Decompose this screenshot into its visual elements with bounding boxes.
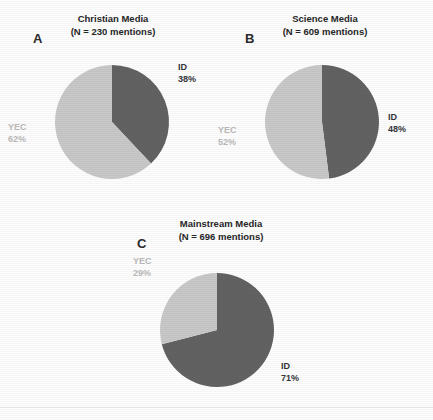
panel-c-id-label: ID 71% [281, 361, 299, 384]
panel-c-subtitle: (N = 696 mentions) [156, 231, 286, 244]
panel-b-slices [265, 65, 379, 179]
panel-c-title-text: Mainstream Media [180, 218, 262, 229]
panel-b-id-label-text: ID [388, 112, 397, 122]
panel-b-id-pct: 48% [388, 124, 406, 136]
panel-b-pie-svg [265, 65, 379, 179]
panel-c-pie-svg [160, 273, 274, 387]
panel-b-slice-id [322, 65, 379, 179]
panel-a-id-label-text: ID [178, 62, 187, 72]
panel-b-yec-label: YEC 52% [218, 125, 237, 148]
panel-c-letter: C [137, 236, 147, 251]
panel-c-yec-label: YEC 29% [133, 256, 152, 279]
panel-a-pie [55, 65, 169, 179]
panel-c-id-pct: 71% [281, 373, 299, 385]
panel-c-title: Mainstream Media (N = 696 mentions) [156, 218, 286, 243]
panel-c-id-label-text: ID [281, 361, 290, 371]
panel-b-title-text: Science Media [292, 13, 357, 24]
panel-a-yec-pct: 62% [8, 134, 27, 146]
panel-b-subtitle: (N = 609 mentions) [264, 26, 386, 39]
panel-a-pie-svg [55, 65, 169, 179]
baseline-rule [0, 407, 433, 408]
panel-b-pie [265, 65, 379, 179]
panel-a-id-pct: 38% [178, 74, 196, 86]
panel-a-yec-label: YEC 62% [8, 122, 27, 145]
panel-a-title-text: Christian Media [78, 13, 149, 24]
panel-c-pie [160, 273, 274, 387]
panel-c-slices [160, 273, 274, 387]
panel-a-title: Christian Media (N = 230 mentions) [52, 13, 174, 38]
panel-b-letter: B [245, 31, 255, 46]
panel-c-yec-pct: 29% [133, 268, 152, 280]
panel-a-slices [55, 65, 169, 179]
panel-b-yec-pct: 52% [218, 137, 237, 149]
pie-chart-figure: A Christian Media (N = 230 mentions) ID … [0, 0, 433, 420]
panel-a-yec-label-text: YEC [8, 122, 27, 132]
panel-b-title: Science Media (N = 609 mentions) [264, 13, 386, 38]
panel-b-id-label: ID 48% [388, 112, 406, 135]
panel-a-subtitle: (N = 230 mentions) [52, 26, 174, 39]
panel-c-yec-label-text: YEC [133, 256, 152, 266]
panel-a-id-label: ID 38% [178, 62, 196, 85]
panel-a-letter: A [33, 31, 43, 46]
panel-b-yec-label-text: YEC [218, 125, 237, 135]
panel-b-slice-yec [265, 65, 329, 179]
